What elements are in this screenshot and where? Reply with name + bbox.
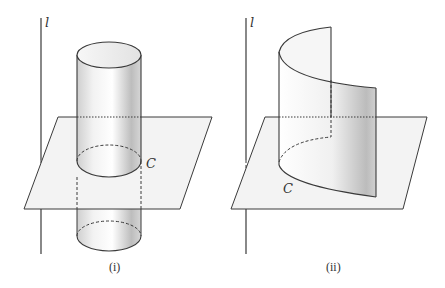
caption-ii: (ii): [326, 260, 341, 274]
cylinder-upper: [77, 55, 141, 177]
caption-i: (i): [109, 260, 120, 274]
top-ellipse: [77, 42, 141, 68]
panel-ii: l C (ii): [231, 15, 427, 274]
curve-label-c: C: [283, 181, 293, 196]
axis-label-l: l: [250, 15, 254, 30]
curve-label-c: C: [146, 156, 156, 171]
cylinder-lower: [77, 209, 141, 251]
diagram-canvas: l C (i) l: [0, 0, 445, 288]
panel-i: l C (i): [24, 15, 212, 274]
axis-label-l: l: [45, 15, 49, 30]
